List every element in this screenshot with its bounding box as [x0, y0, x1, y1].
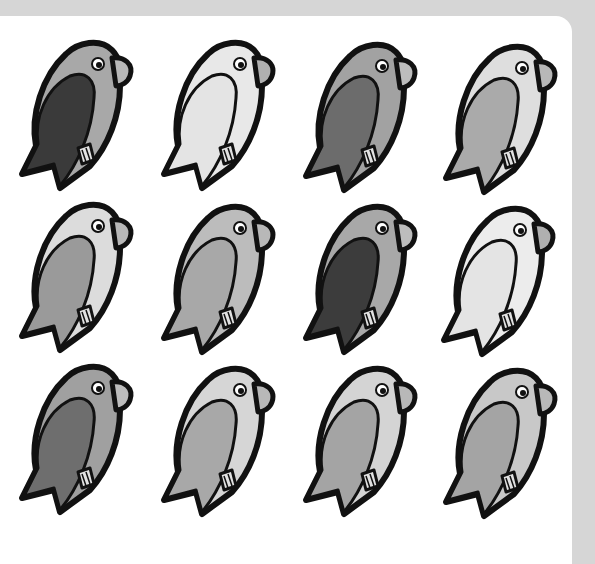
- bird-icon: [150, 36, 280, 196]
- bird-illustration-9: [8, 360, 138, 520]
- bird-icon: [292, 362, 422, 522]
- bird-icon: [430, 202, 560, 362]
- bird-illustration-4: [432, 40, 562, 200]
- bird-illustration-12: [432, 364, 562, 524]
- bird-illustration-2: [150, 36, 280, 196]
- bird-icon: [292, 38, 422, 198]
- bird-illustration-1: [8, 36, 138, 196]
- bird-icon: [8, 360, 138, 520]
- bird-illustration-6: [150, 200, 280, 360]
- bird-illustration-10: [150, 362, 280, 522]
- bird-illustration-7: [292, 200, 422, 360]
- bird-illustration-8: [430, 202, 560, 362]
- bird-illustration-5: [8, 198, 138, 358]
- bird-icon: [432, 40, 562, 200]
- bird-icon: [150, 362, 280, 522]
- bird-icon: [8, 36, 138, 196]
- bird-icon: [8, 198, 138, 358]
- bird-illustration-3: [292, 38, 422, 198]
- bird-illustration-11: [292, 362, 422, 522]
- bird-icon: [432, 364, 562, 524]
- bird-icon: [292, 200, 422, 360]
- bird-icon: [150, 200, 280, 360]
